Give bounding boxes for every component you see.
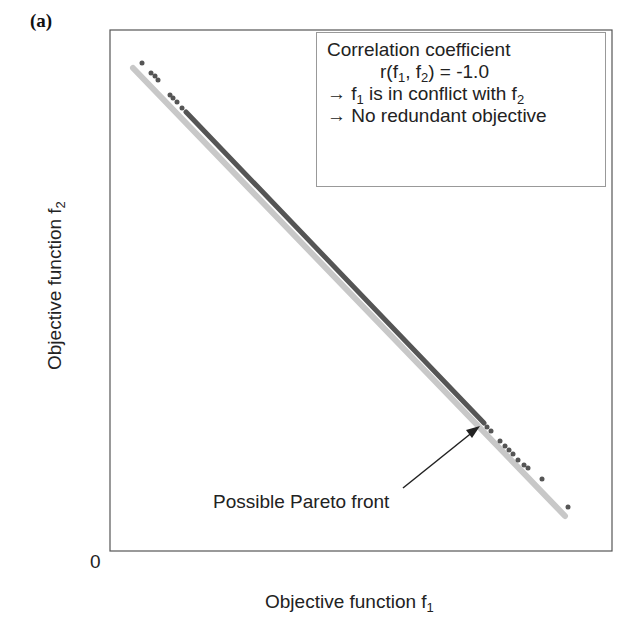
- origin-label: 0: [90, 551, 101, 573]
- legend-line-1: Correlation coefficient: [327, 39, 605, 61]
- annotation-arrow: [403, 431, 474, 488]
- y-axis-label: Objective function f2: [44, 201, 66, 370]
- legend-line-2: r(f1, f2) = -1.0: [327, 61, 605, 83]
- x-axis-label: Objective function f1: [265, 591, 434, 613]
- arrow-right-icon: →: [327, 105, 346, 126]
- legend-box: Correlation coefficient r(f1, f2) = -1.0…: [316, 32, 606, 187]
- legend-line-4: → No redundant objective: [327, 105, 605, 127]
- legend-line-3: → f1 is in conflict with f2: [327, 83, 605, 105]
- pareto-front-annotation: Possible Pareto front: [213, 491, 389, 513]
- arrow-right-icon: →: [327, 83, 346, 104]
